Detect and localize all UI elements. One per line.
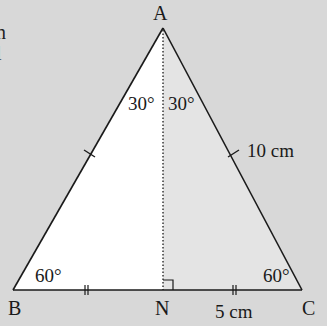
angle-label-A-left: 30° — [128, 93, 155, 114]
angle-label-C: 60° — [263, 265, 290, 286]
length-label-NC: 5 cm — [215, 301, 253, 322]
vertex-label-A: A — [153, 2, 168, 24]
vertex-label-B: B — [8, 297, 21, 319]
length-label-AC: 10 cm — [247, 140, 294, 161]
angle-label-A-right: 30° — [168, 93, 195, 114]
angle-label-B: 60° — [35, 265, 62, 286]
vertex-label-C: C — [302, 297, 315, 319]
point-label-N: N — [155, 297, 169, 319]
triangle-diagram: A B C N 30° 30° 60° 60° 10 cm 5 cm — [0, 0, 327, 326]
